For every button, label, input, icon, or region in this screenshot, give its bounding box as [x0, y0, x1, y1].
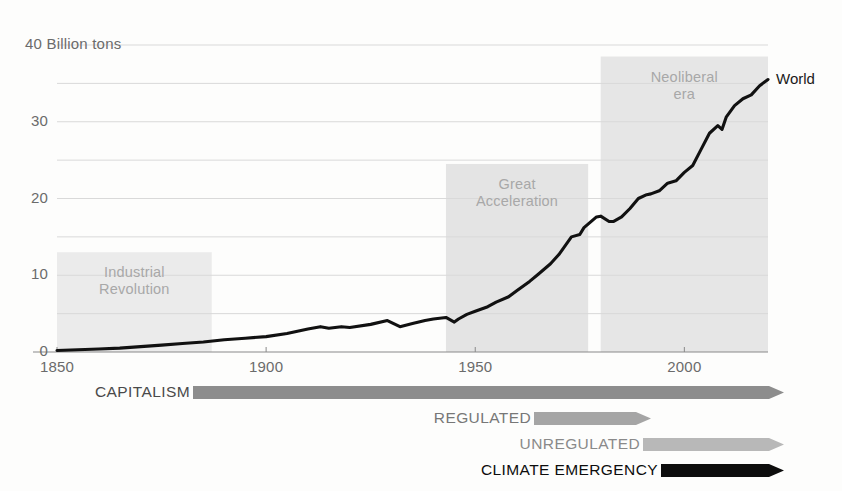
- era-band-label: Industrial Revolution: [57, 264, 212, 298]
- arrow-shape: [643, 438, 784, 451]
- timeline-label: REGULATED: [434, 409, 531, 427]
- timeline-label: CAPITALISM: [95, 383, 190, 401]
- timeline-row: CAPITALISM: [0, 382, 842, 402]
- series-label-world: World: [776, 70, 815, 87]
- emissions-chart: 010203040 Billion tons 1850190019502000 …: [0, 0, 842, 385]
- timeline-label: CLIMATE EMERGENCY: [481, 461, 658, 479]
- timeline-arrow-bar: [193, 386, 784, 399]
- chart-canvas: [0, 0, 842, 385]
- timeline-arrow-bar: [534, 412, 651, 425]
- era-band-label: Neoliberal era: [601, 69, 768, 103]
- timeline-bars: CAPITALISMREGULATEDUNREGULATEDCLIMATE EM…: [0, 372, 842, 491]
- y-axis-unit-label: 40 Billion tons: [25, 35, 121, 52]
- timeline-arrow-bar: [661, 464, 784, 477]
- arrow-shape: [193, 386, 784, 399]
- timeline-row: CLIMATE EMERGENCY: [0, 460, 842, 480]
- y-axis-tick-label: 20: [0, 189, 48, 206]
- arrow-shape: [661, 464, 784, 477]
- y-axis-tick-label: 0: [0, 342, 48, 359]
- timeline-row: UNREGULATED: [0, 434, 842, 454]
- arrow-shape: [534, 412, 651, 425]
- y-axis-tick-label: 10: [0, 265, 48, 282]
- timeline-arrow-bar: [643, 438, 784, 451]
- era-band-label: Great Acceleration: [446, 176, 588, 210]
- chart-root: 010203040 Billion tons 1850190019502000 …: [0, 0, 842, 491]
- timeline-label: UNREGULATED: [520, 435, 640, 453]
- timeline-row: REGULATED: [0, 408, 842, 428]
- y-axis-tick-label: 30: [0, 112, 48, 129]
